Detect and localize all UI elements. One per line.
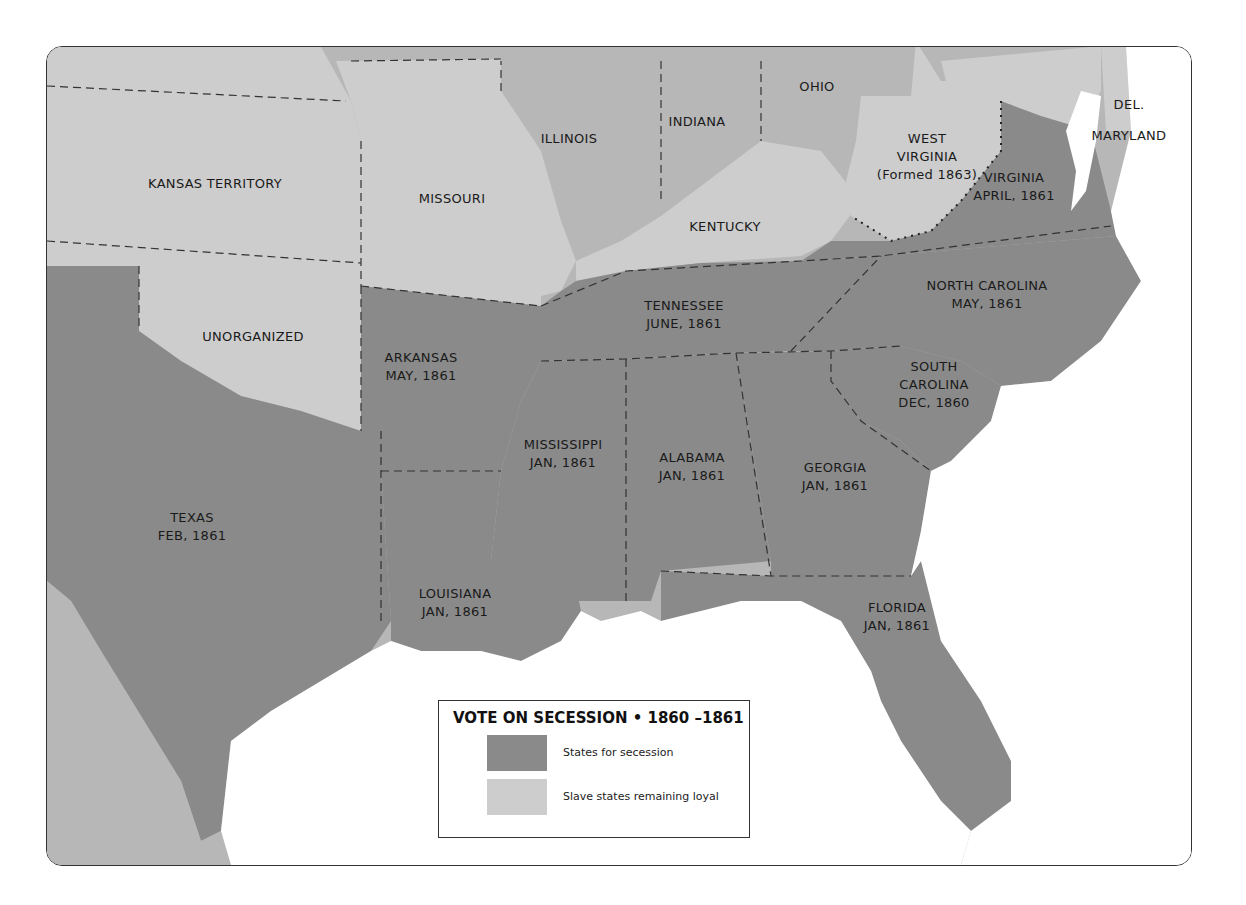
label-virginia: VIRGINIA APRIL, 1861 bbox=[973, 169, 1055, 205]
label-arkansas: ARKANSAS MAY, 1861 bbox=[385, 349, 458, 385]
label-illinois: ILLINOIS bbox=[541, 130, 598, 148]
label-kansas: KANSAS TERRITORY bbox=[148, 175, 282, 193]
legend: VOTE ON SECESSION • 1860 –1861 States fo… bbox=[438, 700, 750, 838]
region-kansas[interactable] bbox=[47, 47, 361, 266]
label-west-virginia: WEST VIRGINIA (Formed 1863) bbox=[877, 130, 977, 184]
label-texas: TEXAS FEB, 1861 bbox=[158, 509, 227, 545]
label-indiana: INDIANA bbox=[668, 113, 725, 131]
label-ohio: OHIO bbox=[799, 78, 834, 96]
label-tennessee: TENNESSEE JUNE, 1861 bbox=[644, 297, 723, 333]
legend-title: VOTE ON SECESSION • 1860 –1861 bbox=[453, 709, 744, 727]
label-kentucky: KENTUCKY bbox=[689, 218, 760, 236]
legend-swatch-loyal bbox=[487, 779, 547, 815]
label-georgia: GEORGIA JAN, 1861 bbox=[802, 459, 868, 495]
label-missouri: MISSOURI bbox=[419, 190, 486, 208]
label-delaware: DEL. bbox=[1114, 96, 1145, 114]
label-maryland: MARYLAND bbox=[1092, 127, 1167, 145]
label-louisiana: LOUISIANA JAN, 1861 bbox=[419, 585, 492, 621]
label-mississippi: MISSISSIPPI JAN, 1861 bbox=[524, 436, 603, 472]
label-unorganized: UNORGANIZED bbox=[202, 328, 303, 346]
legend-swatch-secession bbox=[487, 735, 547, 771]
label-north-carolina: NORTH CAROLINA MAY, 1861 bbox=[926, 277, 1047, 313]
legend-label-secession: States for secession bbox=[563, 746, 674, 759]
legend-label-loyal: Slave states remaining loyal bbox=[563, 790, 719, 803]
region-delaware[interactable] bbox=[1101, 47, 1131, 131]
label-south-carolina: SOUTH CAROLINA DEC, 1860 bbox=[898, 358, 969, 412]
label-alabama: ALABAMA JAN, 1861 bbox=[659, 449, 725, 485]
label-florida: FLORIDA JAN, 1861 bbox=[864, 599, 930, 635]
